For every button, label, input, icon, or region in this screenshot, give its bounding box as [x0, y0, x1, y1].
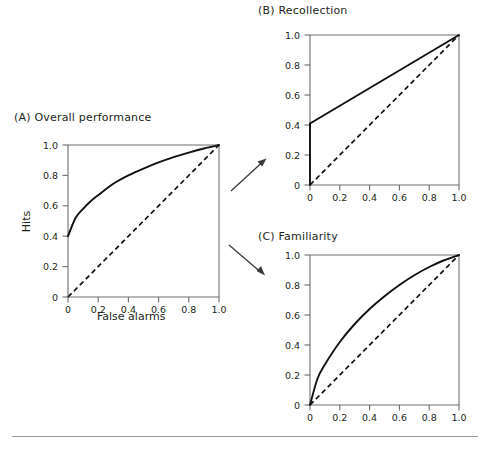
- panel-a-x-tick-labels: 0 0.2 0.4 0.6 0.8 1.0: [65, 304, 227, 315]
- panel-b-title: (B) Recollection: [258, 4, 348, 17]
- tick-label: 1.0: [285, 250, 300, 261]
- arrow-up-right-icon: [231, 159, 267, 192]
- tick-label: 1.0: [451, 192, 466, 203]
- tick-label: 0.6: [151, 304, 166, 315]
- panel-a-roc-curve: [68, 145, 219, 236]
- tick-label: 0.8: [422, 412, 437, 423]
- tick-label: 0.2: [285, 370, 300, 381]
- tick-label: 0.4: [285, 120, 300, 131]
- tick-label: 1.0: [285, 30, 300, 41]
- footer-divider-rule: [12, 436, 478, 437]
- tick-label: 0.8: [422, 192, 437, 203]
- tick-label: 0: [52, 292, 58, 303]
- panel-a-plot: 0 0.2 0.4 0.6 0.8 1.0 0 0.2 0.4 0.6 0.8 …: [43, 140, 227, 316]
- panel-a-x-ticks: [68, 297, 219, 303]
- tick-label: 0.2: [332, 412, 347, 423]
- tick-label: 0.2: [43, 261, 58, 272]
- tick-label: 0.6: [285, 310, 300, 321]
- tick-label: 0.8: [181, 304, 196, 315]
- tick-label: 1.0: [451, 412, 466, 423]
- panel-b-y-tick-labels: 0 0.2 0.4 0.6 0.8 1.0: [285, 30, 300, 191]
- tick-label: 0: [294, 400, 300, 411]
- tick-label: 0.2: [91, 304, 106, 315]
- tick-label: 0.6: [43, 200, 58, 211]
- tick-label: 0: [65, 304, 71, 315]
- figure-roc-dual-process: (A) Overall performance Hits False alarm…: [0, 0, 485, 450]
- tick-label: 0.6: [285, 90, 300, 101]
- tick-label: 0.4: [362, 192, 377, 203]
- panel-c-chance-diagonal: [310, 255, 459, 405]
- tick-label: 0.8: [285, 60, 300, 71]
- tick-label: 0.4: [121, 304, 136, 315]
- panel-a-y-ticks: [63, 145, 69, 297]
- panel-b-plot: 0 0.2 0.4 0.6 0.8 1.0 0 0.2 0.4 0.6 0.8 …: [285, 30, 467, 204]
- tick-label: 0: [294, 180, 300, 191]
- arrow-down-right-icon: [229, 245, 265, 276]
- tick-label: 1.0: [211, 304, 226, 315]
- tick-label: 0.6: [392, 192, 407, 203]
- panel-c-x-ticks: [310, 405, 459, 411]
- panel-c-y-ticks: [305, 255, 311, 405]
- panel-c-x-tick-labels: 0 0.2 0.4 0.6 0.8 1.0: [307, 412, 467, 423]
- panel-b-x-ticks: [310, 185, 459, 191]
- panel-a-y-tick-labels: 0 0.2 0.4 0.6 0.8 1.0: [43, 140, 58, 303]
- tick-label: 0.2: [285, 150, 300, 161]
- tick-label: 0.4: [43, 231, 58, 242]
- tick-label: 0.8: [285, 280, 300, 291]
- tick-label: 0: [307, 412, 313, 423]
- tick-label: 0.4: [285, 340, 300, 351]
- tick-label: 0.6: [392, 412, 407, 423]
- panel-c-plot: 0 0.2 0.4 0.6 0.8 1.0 0 0.2 0.4 0.6 0.8 …: [285, 250, 467, 424]
- panel-c-y-tick-labels: 0 0.2 0.4 0.6 0.8 1.0: [285, 250, 300, 411]
- tick-label: 0.4: [362, 412, 377, 423]
- tick-label: 1.0: [43, 140, 58, 151]
- tick-label: 0.2: [332, 192, 347, 203]
- panel-b-x-tick-labels: 0 0.2 0.4 0.6 0.8 1.0: [307, 192, 467, 203]
- tick-label: 0.8: [43, 170, 58, 181]
- figure-canvas: 0 0.2 0.4 0.6 0.8 1.0 0 0.2 0.4 0.6 0.8 …: [0, 0, 485, 450]
- panel-c-title: (C) Familiarity: [258, 230, 338, 243]
- tick-label: 0: [307, 192, 313, 203]
